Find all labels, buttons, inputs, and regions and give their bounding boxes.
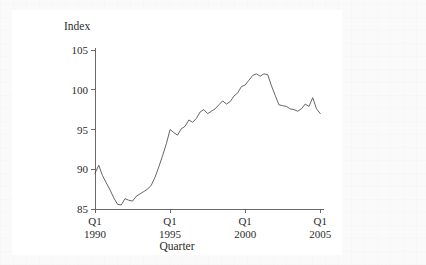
x-tick-label-year: 2000 — [234, 228, 257, 240]
x-tick-label-quarter: Q1 — [314, 215, 327, 227]
x-axis-title: Quarter — [159, 240, 194, 252]
y-tick-label: 85 — [77, 203, 89, 215]
x-tick-label-year: 1990 — [84, 228, 107, 240]
y-tick-label: 105 — [72, 44, 89, 56]
y-tick-label: 100 — [72, 84, 89, 96]
x-tick-label-quarter: Q1 — [163, 215, 176, 227]
x-tick-label-year: 1995 — [159, 228, 182, 240]
y-axis: 859095100105 — [72, 44, 96, 215]
y-axis-title: Index — [64, 20, 90, 32]
plot-panel: 859095100105 Q11990Q11995Q12000Q12005 In… — [12, 10, 342, 255]
series-line-index — [95, 74, 320, 205]
y-tick-label: 90 — [77, 163, 89, 175]
y-tick-label: 95 — [77, 124, 89, 136]
figure-root: 859095100105 Q11990Q11995Q12000Q12005 In… — [0, 0, 426, 265]
x-tick-label-quarter: Q1 — [88, 215, 101, 227]
x-tick-label-quarter: Q1 — [238, 215, 251, 227]
x-axis: Q11990Q11995Q12000Q12005 — [84, 209, 332, 240]
line-chart: 859095100105 Q11990Q11995Q12000Q12005 In… — [12, 10, 342, 255]
x-tick-label-year: 2005 — [309, 228, 332, 240]
series-group — [95, 74, 320, 205]
